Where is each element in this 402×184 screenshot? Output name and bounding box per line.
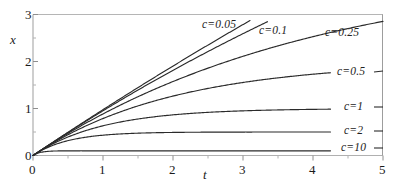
x-axis-label: t [203, 168, 207, 181]
chart-figure: 3 2 1 0 0 1 2 3 4 5 x t c=0.05 c=0.1 c=0… [0, 0, 402, 184]
x-tick-label-1: 1 [99, 163, 106, 176]
x-tick-label-2: 2 [169, 163, 176, 176]
curve-label-c-0-05: c=0.05 [202, 19, 236, 31]
curve-c-10 [33, 151, 331, 156]
y-tick-label-1: 1 [25, 102, 32, 115]
label-leader-dashes [374, 71, 383, 148]
curve-label-c-10: c=10 [341, 142, 366, 154]
x-tick-label-3: 3 [239, 163, 246, 176]
curve-label-c-0-25: c=0.25 [325, 27, 359, 39]
curve-label-c-2: c=2 [344, 125, 363, 137]
curve-label-c-0-5: c=0.5 [337, 66, 365, 78]
y-tick-label-0: 0 [25, 149, 32, 162]
x-tick-label-4: 4 [309, 163, 316, 176]
x-tick-label-0: 0 [29, 163, 36, 176]
curve-c-2 [33, 132, 331, 156]
data-curves [33, 21, 383, 156]
curve-label-c-0-1: c=0.1 [259, 25, 287, 37]
y-tick-label-3: 3 [25, 8, 32, 21]
curve-c-0-1 [33, 22, 268, 156]
x-tick-label-5: 5 [379, 163, 386, 176]
y-tick-label-2: 2 [25, 55, 32, 68]
y-axis-label: x [10, 33, 16, 46]
curve-label-c-1: c=1 [344, 101, 363, 113]
